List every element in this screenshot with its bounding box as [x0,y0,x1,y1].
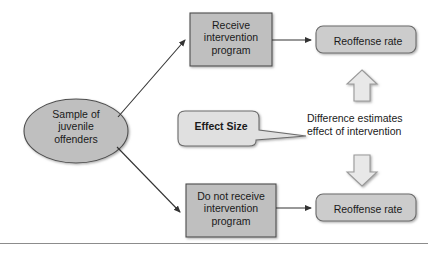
connector-sample-to-receive [118,40,185,117]
diagram-canvas: Sample of juvenile offenders Receive int… [0,0,428,258]
block-arrow-up-icon [347,70,377,101]
node-reoffense-rate-top [316,26,416,53]
node-do-not-receive-intervention-program [186,184,276,237]
bottom-divider [0,243,428,244]
node-receive-intervention-program [190,13,272,66]
node-sample-of-juvenile-offenders [24,99,128,163]
connector-sample-to-not-receive [117,147,180,212]
diagram-shape-layer [0,0,428,258]
node-reoffense-rate-bottom [316,194,416,221]
block-arrow-down-icon [347,155,377,186]
node-effect-size-callout [178,111,306,146]
